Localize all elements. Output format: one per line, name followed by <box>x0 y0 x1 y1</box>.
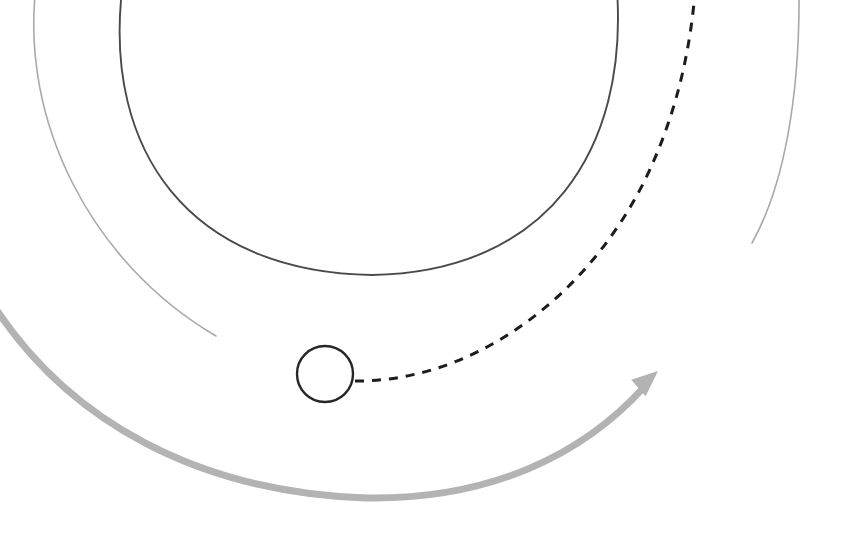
diagram-svg <box>0 0 843 540</box>
diagram-canvas <box>0 0 843 540</box>
